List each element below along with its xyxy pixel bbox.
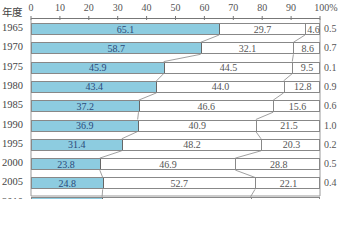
- year-label: 2000: [2, 157, 28, 168]
- bar-segment-1: 24.8: [32, 178, 104, 188]
- bar-segment-2: 46.6: [140, 101, 275, 111]
- bar-segment-3: 15.6: [274, 101, 321, 111]
- bar-segment-2: 44.0: [157, 82, 284, 92]
- bar-row: 24.651.423.8: [31, 197, 320, 199]
- bar-segment-1: 31.4: [32, 140, 123, 150]
- bar-tail-value: 0.4: [324, 177, 337, 188]
- year-label: 2010: [2, 196, 28, 199]
- bar-segment-1: 43.4: [32, 82, 157, 92]
- year-label: 1985: [2, 99, 28, 110]
- bar-tail-value: 0.2: [324, 197, 337, 199]
- bar-row: 43.444.012.8: [31, 81, 320, 93]
- year-label: 1980: [2, 80, 28, 91]
- bar-row: 31.448.220.3: [31, 139, 320, 151]
- bar-segment-1: 24.6: [32, 198, 103, 199]
- bar-segment-2: 29.7: [220, 24, 306, 34]
- bar-segment-2: 51.4: [103, 198, 252, 199]
- bar-row: 23.846.928.8: [31, 158, 320, 170]
- bar-row: 45.944.59.5: [31, 62, 320, 74]
- bar-segment-3: 4.6: [306, 24, 321, 34]
- year-label: 1965: [2, 22, 28, 33]
- bar-tail-value: 0.7: [324, 42, 337, 53]
- bar-segment-3: 22.1: [256, 178, 321, 188]
- bar-row: 58.732.18.6: [31, 42, 320, 54]
- bar-segment-2: 32.1: [202, 43, 295, 53]
- bar-segment-3: 8.6: [294, 43, 321, 53]
- bar-segment-1: 58.7: [32, 43, 202, 53]
- bar-segment-3: 12.8: [285, 82, 321, 92]
- bar-segment-3: 28.8: [236, 159, 321, 169]
- bar-segment-1: 36.9: [32, 121, 139, 131]
- bar-tail-value: 0.6: [324, 100, 337, 111]
- bar-row: 36.940.921.5: [31, 120, 320, 132]
- year-label: 1995: [2, 138, 28, 149]
- year-label: 1990: [2, 119, 28, 130]
- bar-tail-value: 0.2: [324, 139, 337, 150]
- bar-segment-3: 9.5: [293, 63, 321, 73]
- bar-segment-1: 45.9: [32, 63, 165, 73]
- bar-segment-2: 46.9: [101, 159, 237, 169]
- year-label: 2005: [2, 176, 28, 187]
- bar-segment-1: 37.2: [32, 101, 140, 111]
- bar-segment-2: 52.7: [104, 178, 256, 188]
- bar-row: 65.129.74.6: [31, 23, 320, 35]
- bar-segment-1: 23.8: [32, 159, 101, 169]
- year-label: 1970: [2, 41, 28, 52]
- bar-tail-value: 0.5: [324, 158, 337, 169]
- bar-tail-value: 0.5: [324, 23, 337, 34]
- bar-tail-value: 1.0: [324, 120, 337, 131]
- bar-row: 24.852.722.1: [31, 177, 320, 189]
- bar-segment-3: 21.5: [257, 121, 321, 131]
- bar-segment-2: 40.9: [139, 121, 257, 131]
- bar-tail-value: 0.9: [324, 81, 337, 92]
- year-label: 1975: [2, 61, 28, 72]
- bar-segment-2: 48.2: [123, 140, 262, 150]
- bar-segment-3: 23.8: [252, 198, 321, 199]
- bar-tail-value: 0.1: [324, 62, 337, 73]
- bar-segment-2: 44.5: [165, 63, 294, 73]
- bar-segment-1: 65.1: [32, 24, 220, 34]
- bar-row: 37.246.615.6: [31, 100, 320, 112]
- bar-segment-3: 20.3: [262, 140, 321, 150]
